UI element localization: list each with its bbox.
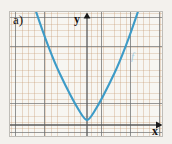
y-axis-arrow-icon (84, 13, 91, 19)
plot-drawing (10, 12, 163, 137)
y-axis-label: y (74, 13, 80, 25)
panel-label: a) (13, 13, 23, 26)
figure-panel: a) y x f (0, 0, 172, 144)
plot-area (9, 11, 163, 137)
function-label-f: f (131, 51, 134, 62)
x-axis-label: x (152, 125, 158, 137)
